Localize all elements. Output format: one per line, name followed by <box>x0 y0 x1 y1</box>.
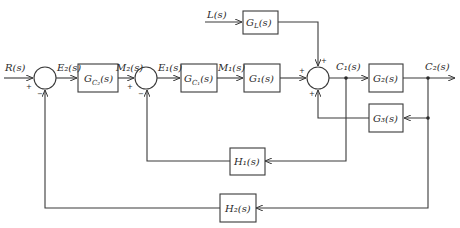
label-e2: E₂(s) <box>56 62 81 73</box>
sum1-sign-left: + <box>26 83 32 91</box>
gl-out-arrow <box>278 22 318 66</box>
branch-point-g3 <box>426 116 430 120</box>
branch-point-c1 <box>344 76 348 80</box>
sum2-sign-bottom: − <box>138 90 144 98</box>
g2-label: G₂(s) <box>373 73 398 84</box>
g1-label: G₁(s) <box>249 73 274 84</box>
label-c2: C₂(s) <box>425 61 450 72</box>
g3-out-arrow <box>318 90 369 118</box>
label-r: R(s) <box>4 62 26 73</box>
branch-point-c2 <box>426 76 430 80</box>
h2-label: H₂(s) <box>224 203 251 214</box>
label-m2: M₂(s) <box>115 62 143 73</box>
summing-junction-1 <box>34 67 56 89</box>
h2-out-arrow <box>45 90 220 208</box>
sum3-sign-bottom: + <box>309 90 315 98</box>
g3-in-arrow <box>404 78 428 118</box>
summing-junction-3 <box>307 67 329 89</box>
sum3-sign-top: + <box>321 57 327 65</box>
sum3-sign-left: + <box>299 67 305 75</box>
sum2-sign-left: + <box>127 83 133 91</box>
g3-label: G₃(s) <box>373 113 398 124</box>
h1-out-arrow <box>147 90 230 161</box>
sum1-sign-bottom: − <box>37 90 43 98</box>
label-e1: E₁(s) <box>157 62 182 73</box>
h1-label: H₁(s) <box>233 156 260 167</box>
label-l: L(s) <box>206 9 227 20</box>
block-diagram: R(s) E₂(s) M₂(s) E₁(s) M₁(s) L(s) C₁(s) … <box>0 0 460 228</box>
label-m1: M₁(s) <box>217 62 245 73</box>
label-c1: C₁(s) <box>336 61 361 72</box>
